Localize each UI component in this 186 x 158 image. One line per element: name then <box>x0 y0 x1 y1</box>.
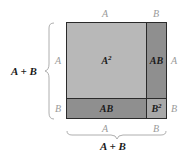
bottom-brace-icon <box>67 131 166 139</box>
left-sum-label: A + B <box>11 66 37 77</box>
bottom-sum-label: A + B <box>100 141 126 152</box>
left-brace-icon <box>45 23 54 119</box>
brace-lines <box>0 0 186 158</box>
